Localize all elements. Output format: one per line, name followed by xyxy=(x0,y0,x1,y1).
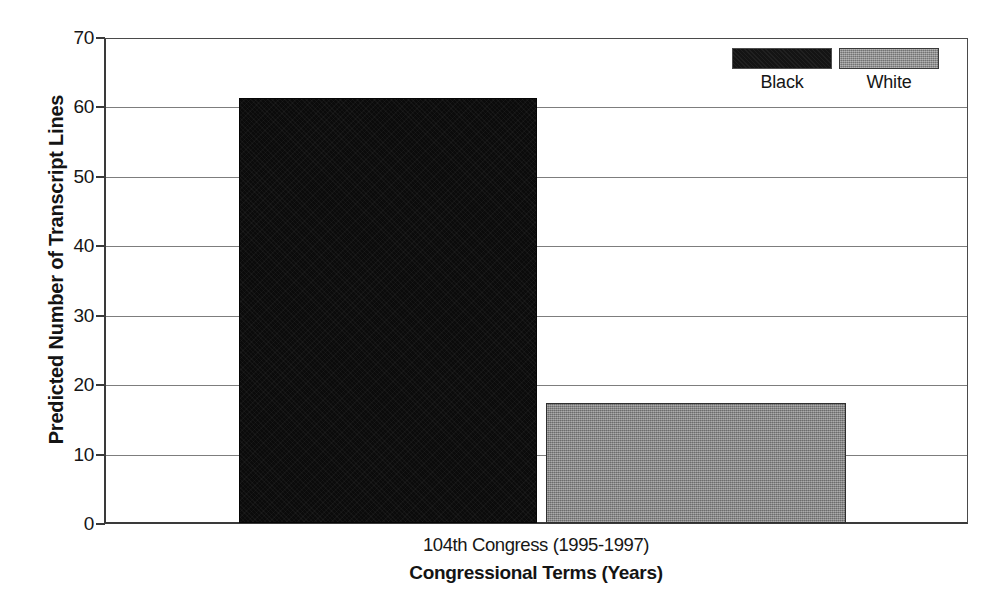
legend-swatch-white-icon xyxy=(839,48,939,69)
y-tick-label-50: 50 xyxy=(56,166,94,188)
bar-black-104th-congress[interactable] xyxy=(239,98,537,523)
plot-area xyxy=(104,38,968,524)
x-axis-title: Congressional Terms (Years) xyxy=(104,562,968,584)
y-tick-label-20: 20 xyxy=(56,374,94,396)
y-tick-label-40: 40 xyxy=(56,235,94,257)
y-tick-label-0: 0 xyxy=(56,513,94,535)
y-tick-label-10: 10 xyxy=(56,444,94,466)
x-tick-label-104th-congress: 104th Congress (1995-1997) xyxy=(104,534,968,556)
bar-white-104th-congress[interactable] xyxy=(546,403,846,523)
legend-label-white: White xyxy=(830,72,948,93)
y-tick-label-60: 60 xyxy=(56,96,94,118)
legend-item-white[interactable]: White xyxy=(830,39,948,97)
bar-chart: Predicted Number of Transcript Lines 70 … xyxy=(0,0,998,598)
legend-item-black[interactable]: Black xyxy=(723,39,841,97)
legend: Black White xyxy=(705,39,966,97)
legend-label-black: Black xyxy=(723,72,841,93)
y-tick-label-30: 30 xyxy=(56,305,94,327)
y-tick-label-70: 70 xyxy=(56,27,94,49)
legend-swatch-black-icon xyxy=(732,48,832,69)
